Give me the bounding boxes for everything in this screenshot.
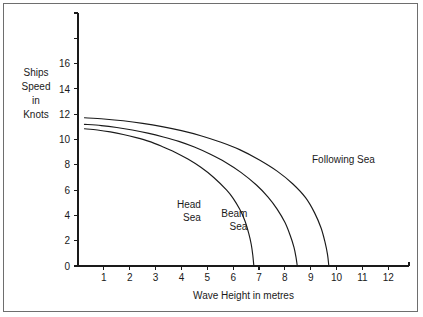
series-curve-following-sea (84, 118, 328, 266)
x-tick-label: 4 (179, 272, 185, 283)
series-label-head-sea: Sea (183, 212, 201, 223)
series-label-beam-sea: Beam (221, 208, 247, 219)
series-curve-beam-sea (84, 124, 297, 266)
y-axis-title-line: Knots (23, 109, 49, 120)
x-tick-label: 12 (383, 272, 395, 283)
y-tick-label: 10 (59, 134, 71, 145)
x-axis-title: Wave Height in metres (193, 290, 294, 301)
y-tick-label: 14 (59, 84, 71, 95)
ship-speed-chart: 0246810121416123456789101112Wave Height … (4, 4, 417, 311)
y-tick-label: 8 (64, 159, 70, 170)
y-axis-title-line: Ships (23, 67, 48, 78)
y-tick-label: 16 (59, 58, 71, 69)
series-label-head-sea: Head (177, 199, 201, 210)
y-tick-label: 12 (59, 109, 71, 120)
x-tick-label: 2 (127, 272, 133, 283)
series-curve-head-sea (84, 129, 253, 266)
x-tick-label: 6 (230, 272, 236, 283)
x-tick-label: 1 (101, 272, 107, 283)
figure-frame: 0246810121416123456789101112Wave Height … (3, 3, 418, 312)
x-tick-label: 11 (357, 272, 368, 283)
y-axis-title-line: Speed (22, 81, 51, 92)
y-tick-label: 6 (64, 185, 70, 196)
x-tick-label: 5 (205, 272, 211, 283)
x-tick-label: 9 (308, 272, 314, 283)
y-tick-label: 4 (64, 210, 70, 221)
x-tick-label: 10 (331, 272, 343, 283)
x-tick-label: 3 (153, 272, 159, 283)
y-tick-label: 0 (64, 261, 70, 272)
series-label-beam-sea: Sea (230, 221, 248, 232)
y-axis-title-line: in (32, 95, 40, 106)
x-tick-label: 7 (256, 272, 262, 283)
series-label-following-sea: Following Sea (312, 154, 375, 165)
x-tick-label: 8 (282, 272, 288, 283)
y-tick-label: 2 (64, 235, 70, 246)
